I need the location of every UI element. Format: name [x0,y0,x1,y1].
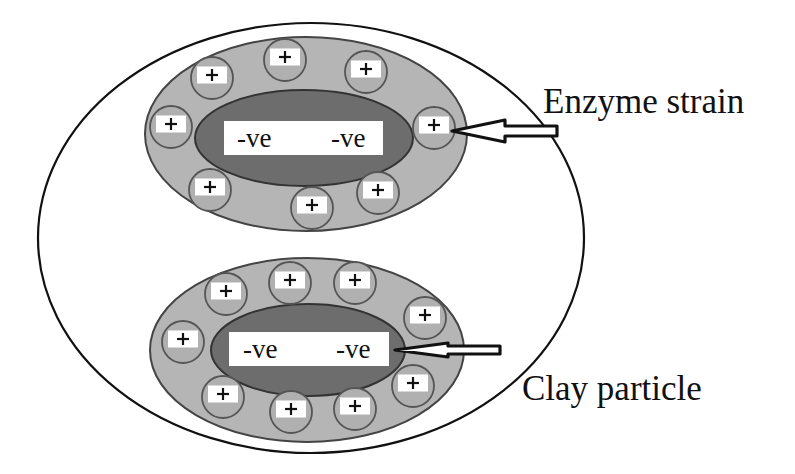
negative-charge-label: -ve [237,123,271,153]
cation-circle [270,391,312,433]
cation-circle [162,321,204,363]
enzyme-clay-diagram: -ve-ve-ve-ve Enzyme strainClay particle [0,0,795,474]
particle-group-top: -ve-ve [145,37,467,231]
cation-circle [334,388,376,430]
cation-circle [357,172,399,214]
cation-circle [269,262,311,304]
cation-circle [392,365,434,407]
annotation-label: Clay particle [522,369,702,408]
cation-circle [264,39,306,81]
cation-circle [189,169,231,211]
cation-circle [413,107,455,149]
negative-charge-label: -ve [331,123,365,153]
cation-circle [150,106,192,148]
cation-circle [291,187,333,229]
cation-circle [334,262,376,304]
cation-circle [202,376,244,418]
annotation-label: Enzyme strain [543,82,744,121]
cation-circle [345,51,387,93]
negative-charge-label: -ve [243,334,277,364]
negative-charge-label: -ve [336,334,370,364]
cation-circle [404,297,446,339]
cation-circle [205,273,247,315]
cation-circle [191,57,233,99]
